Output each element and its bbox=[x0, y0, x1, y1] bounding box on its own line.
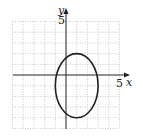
coordinate-plot bbox=[0, 0, 143, 137]
y-tick-label: 5 bbox=[58, 15, 65, 26]
x-axis-label: x bbox=[126, 77, 132, 88]
ellipse-curve bbox=[55, 54, 98, 118]
x-tick-label: 5 bbox=[116, 78, 123, 89]
